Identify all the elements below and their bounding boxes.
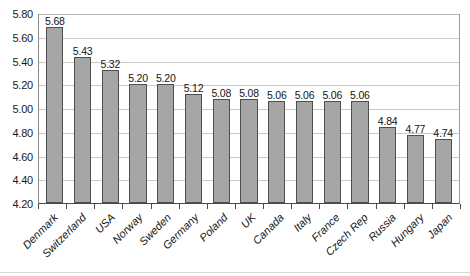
bar-value-label: 5.08 xyxy=(211,87,231,99)
bar[interactable]: 4.77 xyxy=(407,135,424,203)
bar-slot: 4.84 xyxy=(374,14,402,203)
bar-chart: 5.805.605.405.205.004.804.604.404.20 5.6… xyxy=(0,0,470,276)
bar-value-label: 5.06 xyxy=(322,89,342,101)
x-axis-label-slot: Poland xyxy=(207,209,235,271)
x-axis-tick xyxy=(460,204,461,209)
bar-slot: 5.08 xyxy=(235,14,263,203)
bar-slot: 5.20 xyxy=(152,14,180,203)
y-axis-tick-label: 5.60 xyxy=(12,32,33,44)
bar[interactable]: 5.43 xyxy=(74,57,91,203)
x-axis-label-slot: Japan xyxy=(432,209,460,271)
bar[interactable]: 5.06 xyxy=(351,101,368,203)
bar[interactable]: 5.68 xyxy=(46,27,63,203)
bar[interactable]: 5.06 xyxy=(324,101,341,203)
x-axis-label-slot: Canada xyxy=(263,209,291,271)
bar[interactable]: 5.20 xyxy=(157,84,174,203)
bar-slot: 5.68 xyxy=(41,14,69,203)
y-axis-tick-label: 4.80 xyxy=(12,127,33,139)
bar[interactable]: 5.12 xyxy=(185,94,202,203)
x-axis-category-label[interactable]: Italy xyxy=(291,211,314,234)
bar-value-label: 5.32 xyxy=(101,58,121,70)
x-axis-label-slot: Hungary xyxy=(404,209,432,271)
bar-slot: 5.06 xyxy=(346,14,374,203)
y-axis-tick-label: 5.80 xyxy=(12,8,33,20)
bar-value-label: 5.08 xyxy=(239,87,259,99)
bar-value-label: 5.12 xyxy=(184,82,204,94)
bar-value-label: 5.20 xyxy=(128,72,148,84)
y-axis-tick-label: 4.60 xyxy=(12,151,33,163)
bar-series: 5.685.435.325.205.205.125.085.085.065.06… xyxy=(39,14,459,203)
bar-slot: 5.08 xyxy=(207,14,235,203)
bar-value-label: 4.77 xyxy=(406,123,426,135)
bar[interactable]: 5.06 xyxy=(268,101,285,203)
bar[interactable]: 5.20 xyxy=(129,84,146,203)
bar-slot: 4.77 xyxy=(402,14,430,203)
bar-value-label: 5.20 xyxy=(156,72,176,84)
y-axis-tick-label: 5.00 xyxy=(12,103,33,115)
bar-slot: 5.06 xyxy=(291,14,319,203)
bar-slot: 5.43 xyxy=(69,14,97,203)
bar-value-label: 5.06 xyxy=(267,89,287,101)
x-axis-category-label[interactable]: UK xyxy=(238,211,257,230)
bottom-divider xyxy=(0,272,470,273)
bar-slot: 5.12 xyxy=(180,14,208,203)
bar-slot: 5.06 xyxy=(318,14,346,203)
bar-slot: 4.74 xyxy=(429,14,457,203)
bar-slot: 5.20 xyxy=(124,14,152,203)
bar[interactable]: 4.74 xyxy=(435,139,452,203)
bar-value-label: 5.06 xyxy=(350,89,370,101)
bar[interactable]: 5.06 xyxy=(296,101,313,203)
bar-value-label: 5.06 xyxy=(295,89,315,101)
x-axis-label-slot: Switzerland xyxy=(66,209,94,271)
y-axis-tick-label: 5.20 xyxy=(12,79,33,91)
bar-value-label: 5.68 xyxy=(45,15,65,27)
bar-value-label: 5.43 xyxy=(73,45,93,57)
y-axis-tick-label: 4.40 xyxy=(12,174,33,186)
bar-slot: 5.06 xyxy=(263,14,291,203)
bar[interactable]: 5.08 xyxy=(213,99,230,204)
x-axis-category-label[interactable]: USA xyxy=(92,211,116,235)
y-axis-tick-label: 5.40 xyxy=(12,56,33,68)
bar-value-label: 4.84 xyxy=(378,115,398,127)
bar-value-label: 4.74 xyxy=(433,127,453,139)
bar[interactable]: 5.32 xyxy=(102,70,119,203)
plot-area: 5.685.435.325.205.205.125.085.085.065.06… xyxy=(38,14,460,204)
bar[interactable]: 4.84 xyxy=(379,127,396,203)
x-axis-category-labels: DenmarkSwitzerlandUSANorwaySwedenGermany… xyxy=(38,209,460,271)
bar-slot: 5.32 xyxy=(96,14,124,203)
y-axis-tick-label: 4.20 xyxy=(12,198,33,210)
bar[interactable]: 5.08 xyxy=(240,99,257,204)
